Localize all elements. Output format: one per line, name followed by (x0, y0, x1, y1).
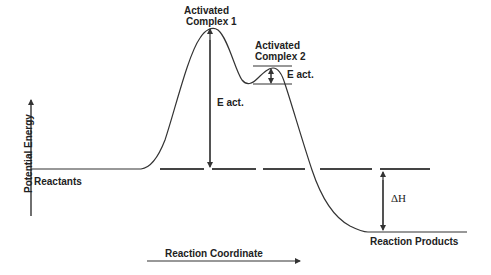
complex2-label-line1: Activated (255, 40, 300, 51)
x-axis-label: Reaction Coordinate (165, 248, 263, 259)
complex2-label-line2: Complex 2 (255, 51, 306, 62)
complex1-label-line2: Complex 1 (186, 16, 237, 27)
diagram-graphics (0, 0, 491, 275)
delta-h-label: ΔH (391, 193, 406, 204)
reactants-label: Reactants (34, 176, 82, 187)
y-axis-label: Potential Energy (23, 114, 34, 193)
eact1-label: E act. (217, 97, 244, 108)
complex1-label-line1: Activated (184, 5, 229, 16)
energy-diagram: Potential Energy Reactants Activated Com… (0, 0, 491, 275)
eact2-label: E act. (287, 69, 314, 80)
products-label: Reaction Products (370, 236, 458, 247)
